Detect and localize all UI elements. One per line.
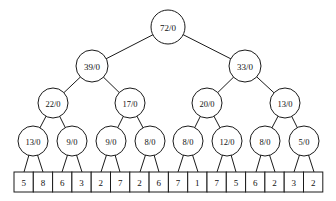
array-cell-value: 5 — [234, 178, 239, 188]
tree-node-label: 8/0 — [145, 137, 156, 147]
tree-node-label: 13/0 — [277, 99, 292, 109]
array-cell-value: 2 — [311, 178, 316, 188]
array-cell-value: 3 — [79, 178, 84, 188]
array-cell-value: 2 — [99, 178, 104, 188]
tree-node-label: 33/0 — [237, 62, 254, 72]
tree-canvas: 5863272671756232 72/039/033/022/017/020/… — [0, 0, 336, 201]
array-cell-value: 5 — [21, 178, 26, 188]
array-cell-value: 7 — [176, 178, 181, 188]
tree-node-label: 8/0 — [260, 137, 271, 147]
tree-node-label: 72/0 — [160, 23, 177, 33]
tree-node-label: 17/0 — [122, 99, 137, 109]
tree-node-label: 8/0 — [183, 137, 194, 147]
tree-node-label: 13/0 — [25, 137, 40, 147]
array-cell-value: 6 — [60, 178, 65, 188]
tree-node-label: 9/0 — [67, 137, 78, 147]
array-cell-value: 2 — [137, 178, 142, 188]
tree-node-label: 22/0 — [45, 99, 60, 109]
array-cell-value: 3 — [292, 178, 297, 188]
array-cell-value: 6 — [253, 178, 258, 188]
tree-node-label: 9/0 — [106, 137, 117, 147]
array-cell-value: 7 — [118, 178, 123, 188]
array-cell-value: 2 — [272, 178, 277, 188]
segment-tree-figure: 5863272671756232 72/039/033/022/017/020/… — [0, 0, 336, 201]
tree-node-label: 12/0 — [219, 137, 234, 147]
array-cell-value: 8 — [41, 178, 46, 188]
array-cell-value: 1 — [195, 178, 200, 188]
tree-node-label: 20/0 — [199, 99, 214, 109]
array-cell-value: 7 — [214, 178, 219, 188]
array-cell-value: 6 — [157, 178, 162, 188]
node-group: 72/039/033/022/017/020/013/013/09/09/08/… — [18, 10, 319, 156]
tree-node-label: 39/0 — [84, 62, 101, 72]
array-group: 5863272671756232 — [14, 172, 323, 192]
tree-node-label: 5/0 — [299, 137, 310, 147]
